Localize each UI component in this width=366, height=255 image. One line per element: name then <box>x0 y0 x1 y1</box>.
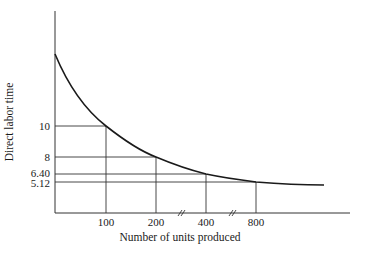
y-tick-label: 10 <box>39 120 51 132</box>
learning-curve-line <box>55 54 324 185</box>
x-tick-label: 800 <box>248 216 265 228</box>
x-tick-label: 100 <box>98 216 115 228</box>
x-tick-label: 200 <box>148 216 165 228</box>
x-tick-label: 400 <box>198 216 215 228</box>
x-axis-label: Number of units produced <box>119 231 240 244</box>
y-tick-label: 8 <box>45 151 51 163</box>
y-axis-label: Direct labor time <box>3 83 15 162</box>
y-tick-label: 5.12 <box>31 177 50 189</box>
learning-curve-chart: 10 8 6.40 5.12 100 200 400 800 Number of… <box>0 0 366 255</box>
